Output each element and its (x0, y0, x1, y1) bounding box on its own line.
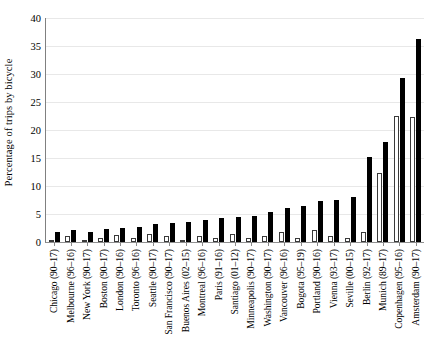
x-axis-tick-mark (317, 242, 318, 246)
bar (236, 217, 241, 242)
x-axis-category-label-text: Amsterdam (90–17) (409, 249, 420, 326)
bar (268, 212, 273, 242)
x-axis-category-label-text: Washington (90–17) (261, 249, 272, 326)
bar (88, 232, 93, 242)
bar (262, 236, 267, 242)
x-axis-tick-mark (104, 242, 105, 246)
y-axis-tick-label: 25 (31, 97, 42, 108)
bar (345, 238, 350, 242)
x-axis-tick-mark (334, 242, 335, 246)
bar-group (194, 18, 210, 242)
x-axis-tick-mark (367, 242, 368, 246)
x-axis-tick-mark (169, 242, 170, 246)
x-axis-category-label: Chicago (90–17) (45, 247, 61, 356)
x-axis-category-label: Vancouver (96–16) (275, 247, 291, 356)
x-axis-tick-mark (251, 242, 252, 246)
x-axis-category-label: Melbourne (96–16) (61, 247, 77, 356)
x-axis-category-label: Buenos Aires (02–15) (177, 247, 193, 356)
x-axis-category-label: London (90–16) (111, 247, 127, 356)
bar-group (391, 18, 407, 242)
bar (361, 232, 366, 242)
bar (295, 238, 300, 242)
bar (153, 224, 158, 242)
x-axis-category-label-text: Vienna (93–17) (327, 249, 338, 308)
bar-group (276, 18, 292, 242)
x-axis-category-label-text: Berlin (92–17) (360, 249, 371, 305)
bar (71, 230, 76, 242)
y-axis-title: Percentage of trips by bicycle (0, 0, 18, 244)
x-axis-category-label: Minneapolis (90–17) (242, 247, 258, 356)
x-axis-category-label: Paris (91–16) (209, 247, 225, 356)
bar (246, 238, 251, 242)
bar (318, 201, 323, 242)
bar-group (62, 18, 78, 242)
bar-group (260, 18, 276, 242)
bar (230, 234, 235, 242)
x-axis-category-label-text: Seville (00–15) (344, 249, 355, 308)
x-axis-category-label-text: San Francisco (90–17) (163, 249, 174, 335)
bar-series-container (46, 18, 424, 242)
x-axis-tick-mark (268, 242, 269, 246)
bar-group (408, 18, 424, 242)
bar-group (79, 18, 95, 242)
x-axis-category-label: Bogota (95–19) (292, 247, 308, 356)
bar (82, 240, 87, 242)
bar (114, 235, 119, 242)
x-axis-tick-mark (186, 242, 187, 246)
bar-group (227, 18, 243, 242)
bar (137, 227, 142, 242)
y-axis-tick-label: 0 (36, 237, 41, 248)
x-axis-category-label-text: Paris (91–16) (212, 249, 223, 300)
x-axis-category-label: Washington (90–17) (259, 247, 275, 356)
x-axis-category-label-text: Buenos Aires (02–15) (179, 249, 190, 332)
y-axis-tick-labels: 0510152025303540 (18, 0, 44, 248)
bar-group (46, 18, 62, 242)
bar-group (243, 18, 259, 242)
x-axis-tick-mark (399, 242, 400, 246)
bar (377, 173, 382, 242)
x-axis-category-label-text: Melbourne (96–16) (64, 249, 75, 323)
x-axis-category-label-text: Montreal (96–16) (196, 249, 207, 316)
x-axis-category-label: Santiago (01–12) (226, 247, 242, 356)
bar (55, 232, 60, 242)
x-axis-category-label: Montreal (96–16) (193, 247, 209, 356)
x-axis-category-label-text: Chicago (90–17) (48, 249, 59, 313)
bar-group (358, 18, 374, 242)
y-axis-tick-label: 20 (31, 125, 42, 136)
x-axis-category-label: Munich (89–17) (374, 247, 390, 356)
x-axis-category-label-text: Munich (89–17) (376, 249, 387, 311)
bar-group (128, 18, 144, 242)
bar (170, 223, 175, 242)
bar (213, 238, 218, 242)
x-axis-category-label-text: New York (90–17) (81, 249, 92, 320)
bar (416, 39, 421, 242)
x-axis-tick-mark (87, 242, 88, 246)
x-axis-category-labels: Chicago (90–17)Melbourne (96–16)New York… (45, 247, 423, 356)
x-axis-category-label: Amsterdam (90–17) (407, 247, 423, 356)
x-axis-category-label: New York (90–17) (78, 247, 94, 356)
x-axis-tick-mark (235, 242, 236, 246)
bar (334, 200, 339, 242)
bar (147, 234, 152, 242)
bar (312, 230, 317, 242)
x-axis-tick-mark (120, 242, 121, 246)
bar (301, 206, 306, 242)
bar (186, 222, 191, 242)
bar (164, 236, 169, 242)
x-axis-category-label: Portland (90–16) (308, 247, 324, 356)
y-axis-tick-label: 15 (31, 153, 42, 164)
bicycle-modal-share-bar-chart: Percentage of trips by bicycle 051015202… (0, 0, 426, 356)
x-axis-category-label-text: Vancouver (96–16) (278, 249, 289, 322)
bar (65, 236, 70, 242)
bar (197, 236, 202, 242)
x-axis-category-label: Berlin (92–17) (357, 247, 373, 356)
x-axis-tick-mark (219, 242, 220, 246)
x-axis-tick-mark (153, 242, 154, 246)
x-axis-tick-mark (350, 242, 351, 246)
bar (285, 208, 290, 242)
bar (279, 232, 284, 242)
x-axis-category-label: Vienna (93–17) (324, 247, 340, 356)
bar (410, 117, 415, 242)
bar-group (161, 18, 177, 242)
x-axis-category-label-text: Portland (90–16) (311, 249, 322, 313)
